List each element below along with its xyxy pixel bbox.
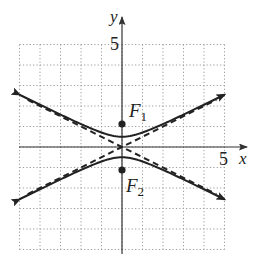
- x-axis-label: x: [238, 149, 247, 168]
- focus-f2-label: F2: [125, 175, 144, 199]
- hyperbola-graph: y 5 5 x F1 F2: [0, 0, 260, 266]
- y-tick-label-5: 5: [110, 34, 119, 54]
- y-axis-label: y: [108, 7, 118, 26]
- focus-f2-point: [118, 166, 125, 173]
- x-tick-label-5: 5: [219, 149, 228, 169]
- focus-f1-label: F1: [128, 100, 147, 124]
- focus-f1-point: [118, 120, 125, 127]
